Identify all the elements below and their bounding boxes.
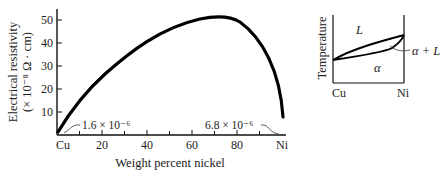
y-ticks bbox=[57, 20, 62, 112]
inset-x-label-ni: Ni bbox=[397, 86, 410, 100]
figure: 10 20 30 40 50 Cu 20 40 60 80 Ni Wei bbox=[0, 0, 447, 177]
inset-y-axis-title: Temperature bbox=[315, 16, 329, 79]
inset-phase-diagram: L α α + L Cu Ni Temperature bbox=[315, 15, 440, 100]
y-axis-title-line2: (× 10⁻⁸ Ω · cm) bbox=[20, 32, 34, 112]
y-axis-title-line1: Electrical resistivity bbox=[6, 21, 20, 122]
annotation-ni-value: 6.8 × 10⁻⁶ bbox=[205, 119, 253, 131]
x-tick-label: 20 bbox=[96, 138, 108, 152]
x-tick-label-cu: Cu bbox=[56, 138, 70, 152]
region-label-liquid: L bbox=[355, 23, 363, 37]
y-tick-label: 20 bbox=[41, 82, 53, 96]
region-label-alpha: α bbox=[374, 61, 381, 75]
annotation-leader-ni bbox=[261, 125, 279, 134]
main-chart: 10 20 30 40 50 Cu 20 40 60 80 Ni Wei bbox=[6, 9, 289, 170]
y-tick-labels: 10 20 30 40 50 bbox=[41, 13, 53, 119]
inset-x-label-cu: Cu bbox=[332, 86, 346, 100]
x-tick-label: 60 bbox=[186, 138, 198, 152]
annotation-cu-value: 1.6 × 10⁻⁶ bbox=[82, 119, 130, 131]
x-tick-label-ni: Ni bbox=[276, 138, 289, 152]
x-axis-title: Weight percent nickel bbox=[115, 156, 225, 170]
x-tick-label: 40 bbox=[141, 138, 153, 152]
x-tick-labels: Cu 20 40 60 80 Ni bbox=[56, 138, 289, 152]
annotation-leader-cu bbox=[64, 125, 80, 133]
y-tick-label: 40 bbox=[41, 36, 53, 50]
y-tick-label: 50 bbox=[41, 13, 53, 27]
y-axis-title: Electrical resistivity (× 10⁻⁸ Ω · cm) bbox=[6, 21, 34, 122]
y-tick-label: 30 bbox=[41, 59, 53, 73]
resistivity-curve bbox=[58, 17, 283, 132]
x-tick-label: 80 bbox=[231, 138, 243, 152]
y-tick-label: 10 bbox=[41, 105, 53, 119]
region-label-two-phase: α + L bbox=[412, 44, 440, 58]
